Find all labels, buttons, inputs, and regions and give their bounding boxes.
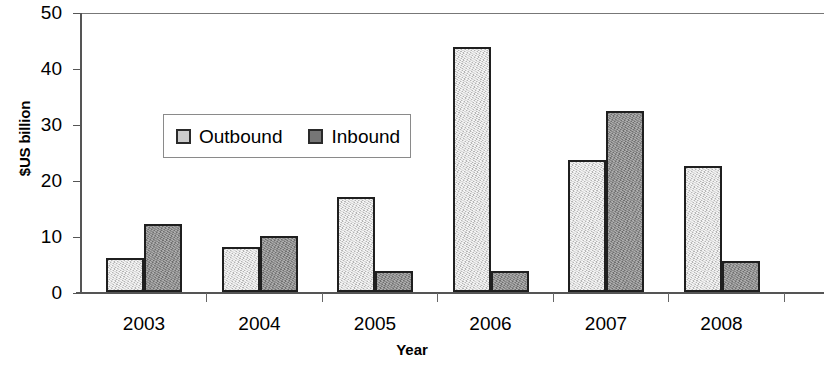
legend-label: Outbound xyxy=(199,127,282,146)
y-tick-label: 50 xyxy=(22,3,62,22)
y-tick xyxy=(73,181,80,182)
inbound-swatch-icon xyxy=(308,129,323,144)
y-tick xyxy=(73,13,80,14)
x-tick xyxy=(437,293,438,302)
bar-outbound-2004 xyxy=(222,247,260,292)
x-tick xyxy=(784,293,785,302)
x-tick-label-2008: 2008 xyxy=(667,313,777,335)
bar-inbound-2007 xyxy=(606,111,644,292)
y-tick xyxy=(73,293,80,294)
bar-outbound-2005 xyxy=(337,197,375,292)
legend-item-inbound: Inbound xyxy=(308,127,400,146)
x-tick xyxy=(322,293,323,302)
y-tick-label: 20 xyxy=(22,171,62,190)
bar-outbound-2008 xyxy=(684,166,722,292)
x-tick-label-2003: 2003 xyxy=(89,313,199,335)
bar-outbound-2006 xyxy=(453,47,491,292)
y-tick-label: 40 xyxy=(22,59,62,78)
y-tick-label: 0 xyxy=(22,283,62,302)
y-tick-label: 30 xyxy=(22,115,62,134)
y-tick-label: 10 xyxy=(22,227,62,246)
legend-label: Inbound xyxy=(331,127,400,146)
bar-inbound-2003 xyxy=(144,224,182,292)
bar-inbound-2008 xyxy=(722,261,760,292)
y-axis-line xyxy=(80,13,82,293)
x-tick xyxy=(668,293,669,302)
x-tick-label-2007: 2007 xyxy=(551,313,661,335)
x-tick-label-2004: 2004 xyxy=(205,313,315,335)
x-tick-label-2005: 2005 xyxy=(320,313,430,335)
x-axis-title: Year xyxy=(0,341,824,358)
bar-inbound-2005 xyxy=(375,271,413,292)
x-tick xyxy=(553,293,554,302)
bar-inbound-2004 xyxy=(260,236,298,292)
bar-outbound-2003 xyxy=(106,258,144,292)
y-tick xyxy=(73,125,80,126)
x-tick xyxy=(206,293,207,302)
bar-chart: $US billion 01020304050 2003200420052006… xyxy=(0,0,824,370)
x-axis-line xyxy=(76,292,824,294)
bar-inbound-2006 xyxy=(491,271,529,292)
bar-outbound-2007 xyxy=(568,160,606,292)
outbound-swatch-icon xyxy=(176,129,191,144)
x-tick-label-2006: 2006 xyxy=(436,313,546,335)
y-tick xyxy=(73,237,80,238)
y-tick xyxy=(73,69,80,70)
legend-item-outbound: Outbound xyxy=(176,127,282,146)
plot-top-border xyxy=(80,13,824,14)
chart-legend: OutboundInbound xyxy=(163,114,411,158)
